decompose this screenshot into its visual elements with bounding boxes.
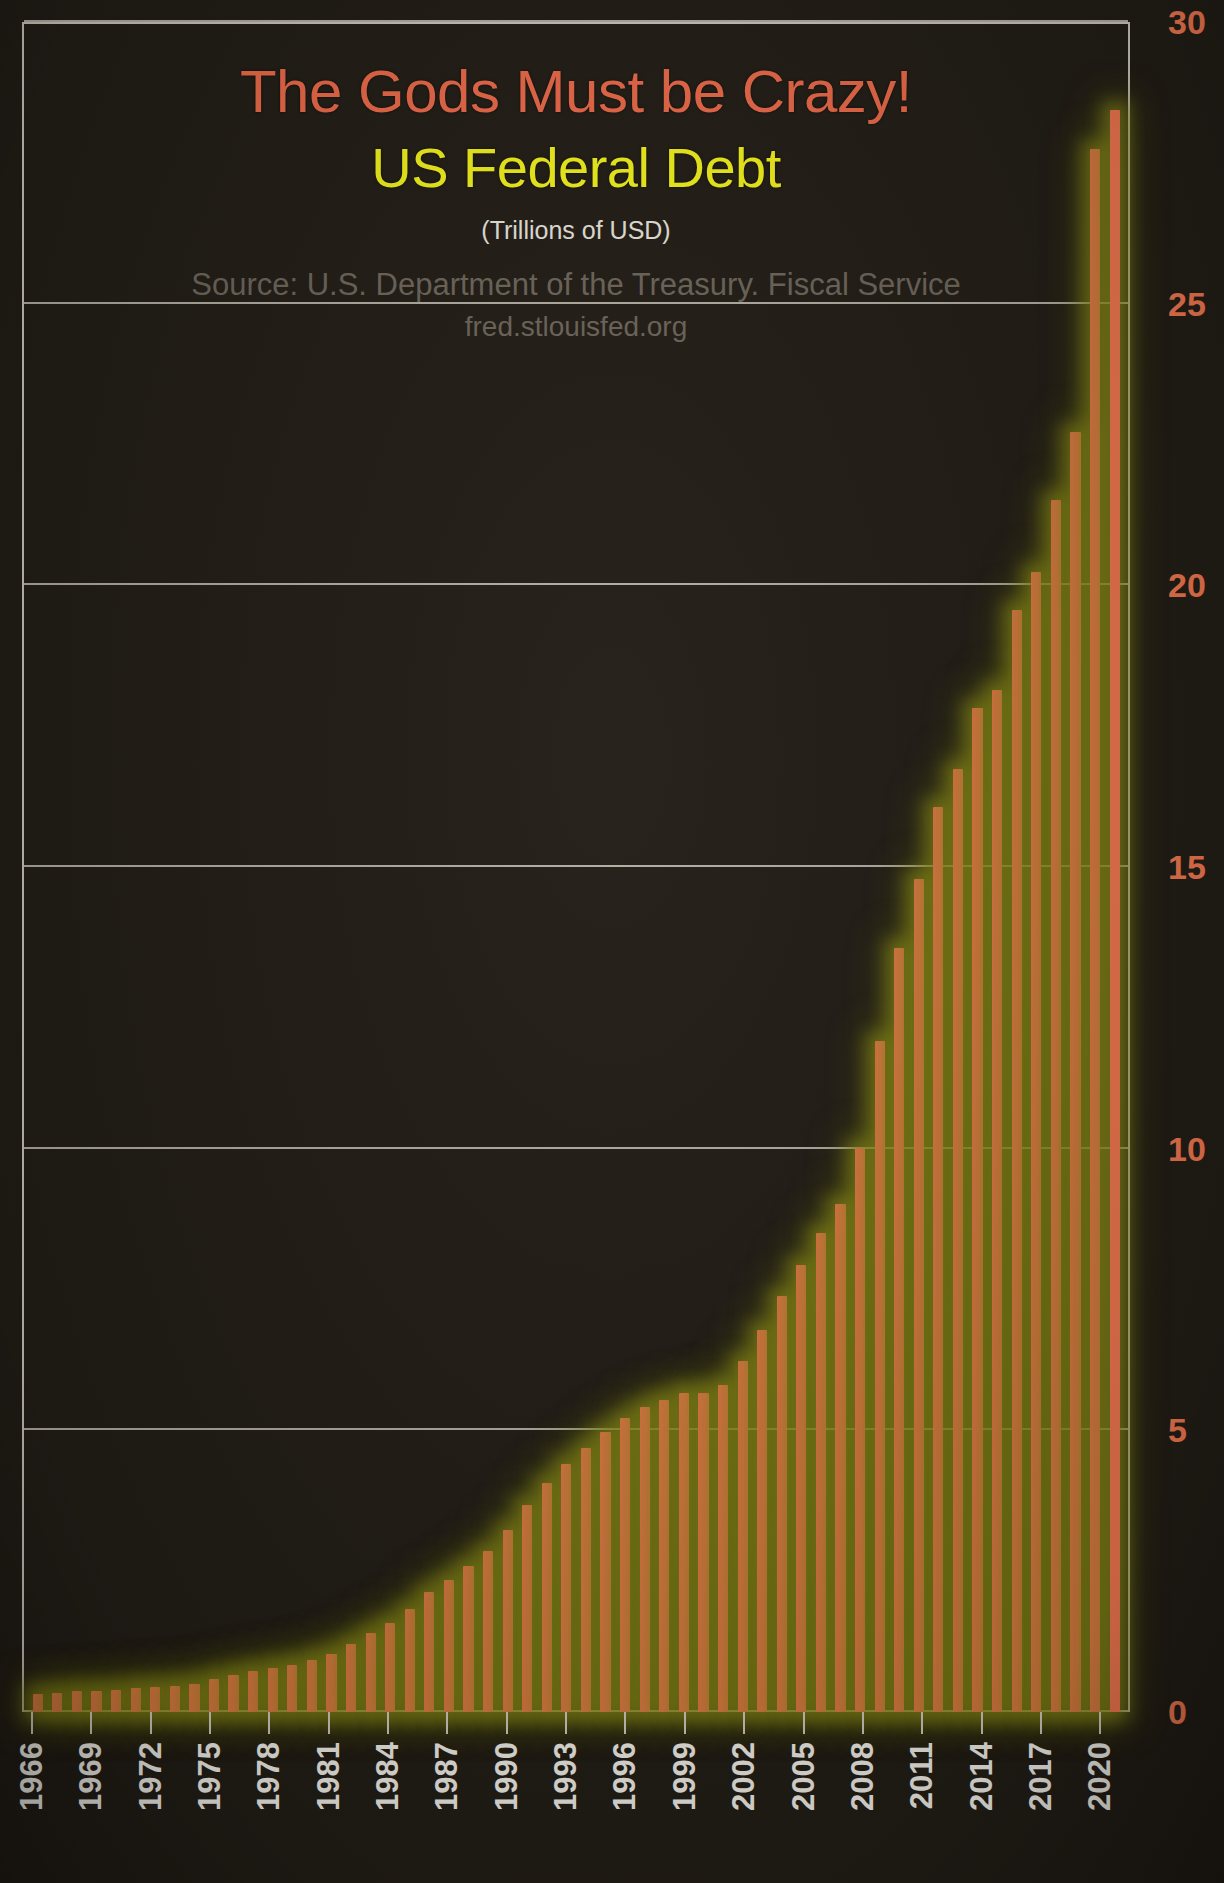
x-axis-tick-mark: [921, 1712, 923, 1734]
bar[interactable]: [1051, 500, 1061, 1712]
x-axis-tick: 1969: [81, 1712, 101, 1883]
y-axis: 302520151050: [1132, 0, 1224, 1883]
chart-header: The Gods Must be Crazy! US Federal Debt …: [22, 22, 1130, 343]
x-axis-tick-mark: [1040, 1712, 1042, 1734]
bar[interactable]: [738, 1361, 748, 1712]
bar[interactable]: [1090, 149, 1100, 1712]
bar[interactable]: [170, 1686, 180, 1712]
bar[interactable]: [209, 1679, 219, 1712]
bar[interactable]: [718, 1385, 728, 1712]
bar[interactable]: [659, 1400, 669, 1712]
x-axis-tick-mark: [446, 1712, 448, 1734]
x-axis-tick-label: 1990: [489, 1742, 525, 1811]
bar[interactable]: [1110, 110, 1120, 1712]
x-axis-tick-label: 1966: [14, 1742, 50, 1811]
bar[interactable]: [405, 1609, 415, 1712]
x-axis-tick: 1996: [616, 1712, 636, 1883]
bar[interactable]: [1012, 610, 1022, 1712]
x-axis-tick: 1978: [259, 1712, 279, 1883]
bar[interactable]: [992, 690, 1002, 1712]
bar[interactable]: [33, 1694, 43, 1712]
bar[interactable]: [268, 1668, 278, 1712]
bar[interactable]: [72, 1691, 82, 1712]
bar[interactable]: [385, 1623, 395, 1712]
bar[interactable]: [1070, 432, 1080, 1712]
bar[interactable]: [52, 1693, 62, 1712]
x-axis-tick: 1975: [200, 1712, 220, 1883]
bar[interactable]: [757, 1330, 767, 1712]
bar[interactable]: [640, 1407, 650, 1712]
x-axis-tick: 1987: [438, 1712, 458, 1883]
bar[interactable]: [620, 1418, 630, 1712]
bar[interactable]: [542, 1483, 552, 1712]
bar[interactable]: [228, 1675, 238, 1712]
bar[interactable]: [777, 1296, 787, 1712]
bar[interactable]: [307, 1660, 317, 1712]
y-axis-tick-label: 25: [1168, 284, 1206, 323]
bar[interactable]: [131, 1688, 141, 1712]
bar[interactable]: [796, 1265, 806, 1712]
bar[interactable]: [503, 1530, 513, 1712]
chart-source-label: Source: U.S. Department of the Treasury.…: [22, 245, 1130, 303]
x-axis-tick-mark: [387, 1712, 389, 1734]
x-axis-tick-mark: [981, 1712, 983, 1734]
x-axis-tick-label: 2005: [786, 1742, 822, 1811]
x-axis-tick: 2014: [972, 1712, 992, 1883]
x-axis-tick-label: 1984: [370, 1742, 406, 1811]
bar[interactable]: [522, 1505, 532, 1712]
x-axis-tick-mark: [743, 1712, 745, 1734]
bar[interactable]: [581, 1448, 591, 1712]
bar[interactable]: [894, 948, 904, 1712]
x-axis-tick: 1999: [675, 1712, 695, 1883]
bar[interactable]: [189, 1684, 199, 1712]
bar[interactable]: [816, 1233, 826, 1712]
bar[interactable]: [933, 807, 943, 1712]
bar[interactable]: [855, 1148, 865, 1712]
bar[interactable]: [91, 1691, 101, 1712]
x-axis-tick: 1981: [319, 1712, 339, 1883]
bar[interactable]: [679, 1393, 689, 1712]
x-axis-tick-mark: [684, 1712, 686, 1734]
x-axis-tick: 2017: [1031, 1712, 1051, 1883]
x-axis-tick-label: 1978: [251, 1742, 287, 1811]
bar[interactable]: [111, 1690, 121, 1712]
x-axis-tick: 2020: [1090, 1712, 1110, 1883]
bar[interactable]: [483, 1551, 493, 1712]
bar[interactable]: [875, 1041, 885, 1712]
bar[interactable]: [972, 708, 982, 1712]
x-axis-tick-label: 1999: [667, 1742, 703, 1811]
x-axis: 1966196919721975197819811984198719901993…: [22, 1712, 1130, 1883]
chart-title: The Gods Must be Crazy!: [22, 22, 1130, 123]
bar[interactable]: [463, 1566, 473, 1712]
x-axis-tick-label: 2014: [964, 1742, 1000, 1811]
bar[interactable]: [698, 1393, 708, 1712]
bar[interactable]: [287, 1665, 297, 1712]
y-axis-tick-label: 10: [1168, 1129, 1206, 1168]
x-axis-tick-label: 2002: [726, 1742, 762, 1811]
x-axis-tick: 1984: [378, 1712, 398, 1883]
x-axis-tick-label: 2011: [904, 1742, 940, 1809]
bar[interactable]: [1031, 572, 1041, 1712]
x-axis-tick-mark: [328, 1712, 330, 1734]
chart-canvas: The Gods Must be Crazy! US Federal Debt …: [0, 0, 1224, 1883]
x-axis-tick-label: 2020: [1082, 1742, 1118, 1811]
x-axis-tick: 2008: [853, 1712, 873, 1883]
bar[interactable]: [600, 1432, 610, 1712]
bar[interactable]: [914, 879, 924, 1712]
bar[interactable]: [953, 769, 963, 1712]
bar[interactable]: [366, 1633, 376, 1712]
bar[interactable]: [326, 1654, 336, 1712]
bar[interactable]: [346, 1644, 356, 1712]
x-axis-tick-mark: [506, 1712, 508, 1734]
chart-subtitle: US Federal Debt: [22, 123, 1130, 198]
bar[interactable]: [150, 1687, 160, 1712]
y-axis-tick-label: 20: [1168, 566, 1206, 605]
bar[interactable]: [561, 1464, 571, 1712]
bar[interactable]: [424, 1592, 434, 1712]
x-axis-tick-label: 2008: [845, 1742, 881, 1811]
x-axis-tick-mark: [565, 1712, 567, 1734]
x-axis-tick: 2002: [734, 1712, 754, 1883]
bar[interactable]: [835, 1204, 845, 1712]
bar[interactable]: [248, 1671, 258, 1712]
bar[interactable]: [444, 1580, 454, 1712]
